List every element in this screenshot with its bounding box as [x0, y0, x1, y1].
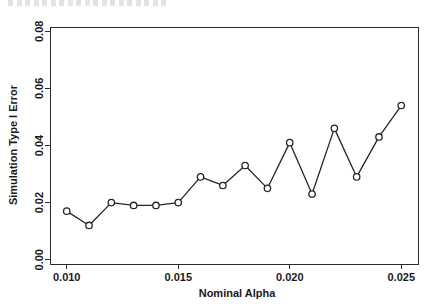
data-point-4 — [153, 202, 159, 208]
line-chart-plot: 0.0100.0150.0200.025 0.000.020.040.060.0… — [0, 0, 427, 304]
plot-border — [50, 27, 418, 264]
data-point-13 — [353, 174, 359, 180]
data-point-2 — [108, 199, 114, 205]
y-tick-label-4: 0.08 — [33, 21, 45, 42]
x-tick-label-0: 0.010 — [53, 271, 81, 283]
data-point-3 — [130, 202, 136, 208]
data-point-9 — [264, 185, 270, 191]
x-tick-label-3: 0.025 — [388, 271, 416, 283]
x-tick-label-1: 0.015 — [164, 271, 192, 283]
y-axis-title: Simulation Type I Error — [7, 84, 19, 205]
x-tick-label-2: 0.020 — [276, 271, 304, 283]
y-axis-tick-labels: 0.000.020.040.060.08 — [33, 21, 45, 271]
data-series-simulation-type-i-error — [64, 102, 405, 228]
data-point-14 — [376, 134, 382, 140]
scan-artifact-text — [8, 0, 168, 6]
y-tick-label-1: 0.02 — [33, 192, 45, 213]
data-point-8 — [242, 162, 248, 168]
series-line-path — [67, 106, 402, 226]
data-point-5 — [175, 199, 181, 205]
data-point-7 — [220, 182, 226, 188]
y-axis-ticks — [45, 31, 50, 259]
x-axis-tick-labels: 0.0100.0150.0200.025 — [53, 271, 415, 283]
x-axis-title: Nominal Alpha — [199, 287, 276, 299]
data-point-1 — [86, 222, 92, 228]
data-point-6 — [197, 174, 203, 180]
plot-frame — [50, 27, 418, 264]
y-tick-label-0: 0.00 — [33, 249, 45, 270]
data-point-15 — [398, 102, 404, 108]
data-point-0 — [64, 208, 70, 214]
data-point-11 — [309, 191, 315, 197]
data-point-12 — [331, 125, 337, 131]
data-point-10 — [287, 139, 293, 145]
y-tick-label-2: 0.04 — [33, 134, 45, 156]
chart-figure: 0.0100.0150.0200.025 0.000.020.040.060.0… — [0, 0, 427, 304]
x-axis-ticks — [67, 264, 402, 269]
y-tick-label-3: 0.06 — [33, 78, 45, 99]
